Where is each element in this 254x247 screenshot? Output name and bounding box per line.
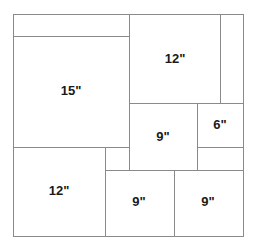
six-inch-bottom: [197, 147, 244, 148]
fifteen-inch-bottom: [13, 147, 129, 148]
top-strip-divider: [13, 36, 129, 37]
label-9-inch-middle: 9": [156, 129, 169, 144]
label-12-inch-bottom: 12": [49, 183, 70, 198]
outer-border-bottom: [13, 236, 244, 237]
six-inch-left-divider: [197, 103, 198, 170]
outer-border-left: [13, 14, 14, 237]
right-upper-horizontal: [129, 103, 244, 104]
center-vertical-divider: [129, 14, 130, 171]
twelve-inch-bottom-right: [105, 147, 106, 237]
label-9-inch-bottom-right: 9": [201, 194, 214, 209]
label-9-inch-bottom-left: 9": [132, 194, 145, 209]
label-12-inch-top: 12": [165, 51, 186, 66]
bottom-nine-divider: [174, 170, 175, 237]
label-6-inch: 6": [213, 117, 226, 132]
label-15-inch: 15": [61, 83, 82, 98]
outer-border-right: [243, 14, 244, 237]
right-strip-divider: [220, 14, 221, 103]
quilt-block-layout-diagram: 15" 12" 9" 6" 12" 9" 9": [0, 0, 254, 247]
